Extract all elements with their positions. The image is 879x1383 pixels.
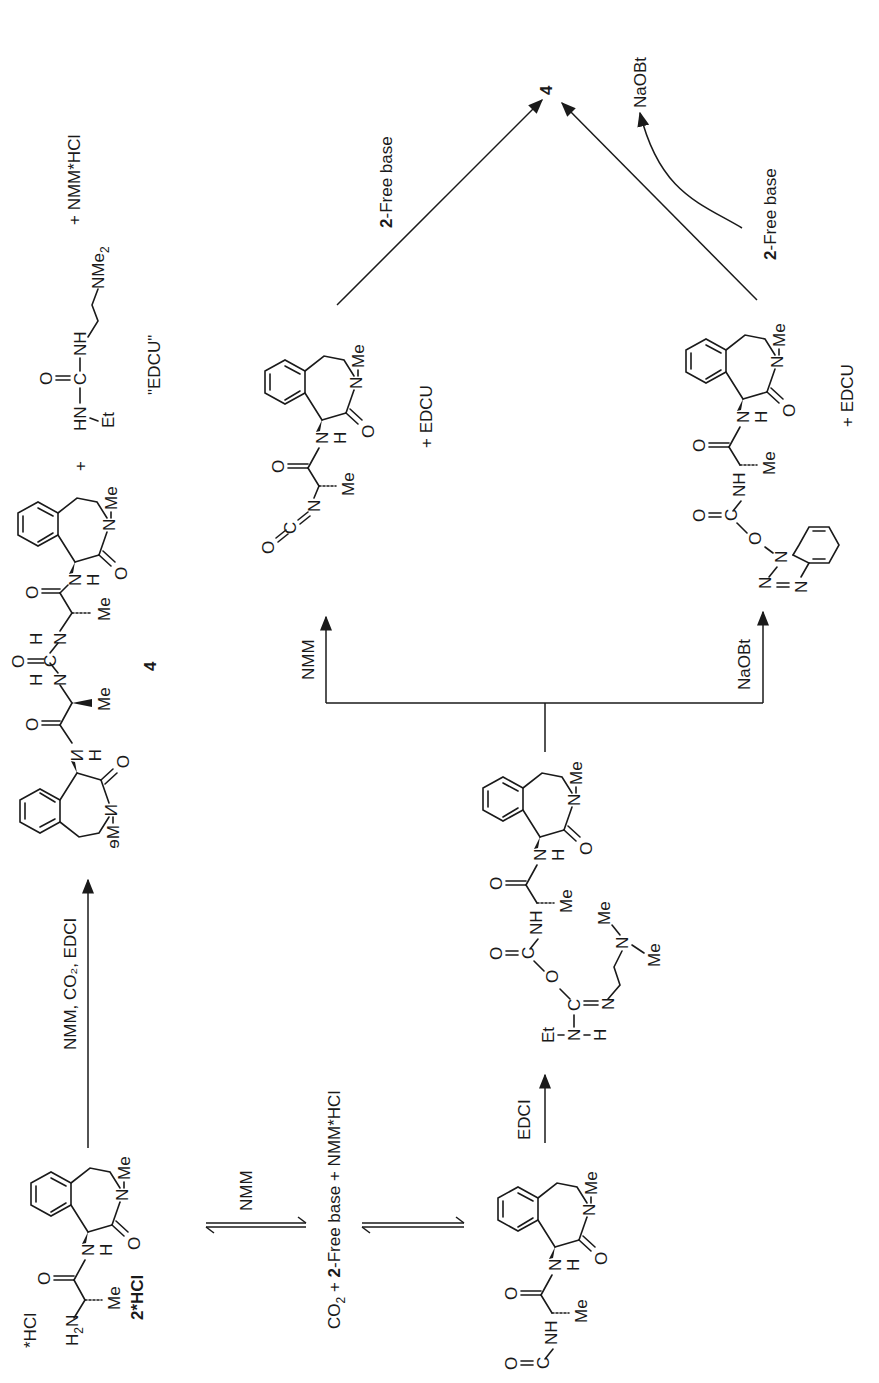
svg-text:Et: Et <box>539 1027 558 1043</box>
arrow-direct: NMM, CO₂, EDCI <box>61 880 88 1148</box>
isocyanate-byproduct: + EDCU <box>417 385 436 448</box>
svg-text:O: O <box>259 541 278 554</box>
svg-text:C: C <box>41 655 60 667</box>
edcu-label: "EDCU" <box>145 335 164 395</box>
to-product-right-out-label: NaOBt <box>631 57 650 108</box>
svg-text:Et: Et <box>99 412 118 428</box>
svg-text:O: O <box>35 1272 54 1285</box>
compound-4: O Me N H C O N H Me O 4 <box>9 486 160 848</box>
svg-text:N: N <box>51 633 70 645</box>
compound-obt-ester: O Me NH C O O N N N + EDCU <box>686 323 857 593</box>
equilibrium-1-label: NMM <box>237 1170 256 1211</box>
svg-text:O: O <box>502 1357 521 1370</box>
branch-arrows: NMM NaOBt <box>299 612 763 752</box>
svg-text:O: O <box>487 947 506 960</box>
svg-text:NMe2: NMe2 <box>89 246 112 289</box>
to-product-left-label: 2-Free base <box>377 136 396 228</box>
svg-text:O: O <box>23 718 42 731</box>
svg-text:O: O <box>543 970 562 983</box>
product-4-label: 4 <box>537 85 556 95</box>
svg-text:N: N <box>792 581 811 593</box>
svg-text:Me: Me <box>95 687 114 711</box>
svg-text:Me: Me <box>595 901 614 925</box>
svg-text:N: N <box>565 1029 584 1041</box>
svg-text:H: H <box>27 633 46 645</box>
svg-text:Me: Me <box>557 889 576 913</box>
svg-text:H: H <box>591 1029 610 1041</box>
svg-text:NH: NH <box>527 910 546 935</box>
to-product-right-in-label: 2-Free base <box>761 168 780 260</box>
svg-text:N: N <box>305 500 324 512</box>
svg-text:N: N <box>51 674 70 686</box>
branch-left-label: NMM <box>299 639 318 680</box>
svg-text:H2N: H2N <box>63 1315 86 1346</box>
branch-right-label: NaOBt <box>735 639 754 690</box>
svg-text:O: O <box>746 532 765 545</box>
arrow-activation: EDCI <box>515 1075 545 1143</box>
svg-text:Me: Me <box>760 451 779 475</box>
svg-text:NH: NH <box>730 472 749 497</box>
svg-text:C: C <box>519 947 538 959</box>
svg-text:Me: Me <box>645 943 664 967</box>
compound-label-2hcl: 2*HCl <box>128 1275 147 1320</box>
compound-isocyanate: O Me N C O + EDCU <box>259 344 436 554</box>
compound-label-4: 4 <box>141 661 160 671</box>
obt-byproduct: + EDCU <box>838 364 857 427</box>
arrow-direct-label: NMM, CO₂, EDCI <box>61 918 80 1050</box>
scheme-canvas: N Me O N H O Me H2N *HCl 2*HCl NMM, CO₂,… <box>0 0 879 1383</box>
svg-text:N: N <box>613 937 632 949</box>
plus-sign: + <box>71 461 90 471</box>
svg-text:NH: NH <box>542 1320 561 1345</box>
reaction-scheme: N Me O N H O Me H2N *HCl 2*HCl NMM, CO₂,… <box>0 0 879 1383</box>
svg-text:Me: Me <box>105 1286 124 1310</box>
svg-text:O: O <box>9 655 28 668</box>
svg-text:O: O <box>37 372 56 385</box>
svg-text:Me: Me <box>572 1299 591 1323</box>
salt-label: *HCl <box>21 1313 40 1348</box>
svg-text:O: O <box>502 1287 521 1300</box>
equilibrium-species: CO2 + 2-Free base + NMM*HCl <box>325 1091 348 1329</box>
svg-text:C: C <box>71 373 90 385</box>
compound-edcu: HN C O NH Et NMe2 "EDCU" <box>37 246 164 431</box>
svg-text:Me: Me <box>95 597 114 621</box>
svg-text:Me: Me <box>339 472 358 496</box>
svg-text:O: O <box>690 509 709 522</box>
arrow-activation-label: EDCI <box>515 1099 534 1140</box>
svg-text:H: H <box>27 674 46 686</box>
svg-text:NH: NH <box>71 331 90 356</box>
svg-text:N: N <box>772 551 791 563</box>
svg-text:C: C <box>565 999 584 1011</box>
svg-text:O: O <box>23 586 42 599</box>
svg-text:O: O <box>269 460 288 473</box>
svg-text:N: N <box>756 577 775 589</box>
svg-text:C: C <box>534 1357 553 1369</box>
svg-text:O: O <box>487 877 506 890</box>
nmm-hcl-byproduct: + NMM*HCl <box>65 135 84 225</box>
svg-text:HN: HN <box>71 406 90 431</box>
equilibrium-arrow-1: NMM <box>206 1170 306 1233</box>
compound-o-acylisourea: O Me NH C O O C N N Me Me N Et H <box>483 761 664 1043</box>
svg-text:C: C <box>722 509 741 521</box>
compound-2-hcl: O Me H2N *HCl 2*HCl <box>21 1156 147 1348</box>
equilibrium-arrow-2 <box>362 1217 464 1233</box>
compound-carbamate: O Me NH C O <box>498 1171 611 1370</box>
svg-text:O: O <box>690 439 709 452</box>
arrows-to-product: 2-Free base 4 2-Free base NaOBt <box>337 57 780 305</box>
